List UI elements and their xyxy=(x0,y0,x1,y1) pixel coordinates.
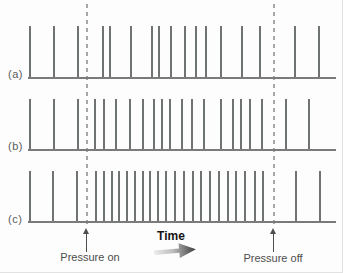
spike-mark xyxy=(126,171,128,221)
spike-mark xyxy=(103,99,105,149)
row-label-a: (a) xyxy=(8,68,23,80)
time-arrow-icon xyxy=(153,241,196,261)
spike-mark xyxy=(262,171,264,221)
spike-mark xyxy=(220,99,222,149)
spike-mark xyxy=(29,99,31,149)
spike-mark xyxy=(165,171,167,221)
time-label: Time xyxy=(157,229,185,243)
pressure-off-label: Pressure off xyxy=(243,252,302,264)
row-label-b: (b) xyxy=(8,140,23,152)
spike-mark xyxy=(295,171,297,221)
spike-mark xyxy=(181,99,183,149)
spike-mark xyxy=(244,171,246,221)
spike-mark xyxy=(153,99,155,149)
spike-mark xyxy=(192,171,194,221)
spike-mark xyxy=(285,99,287,149)
spike-mark xyxy=(129,99,131,149)
spike-mark xyxy=(53,26,55,77)
spike-mark xyxy=(319,171,321,221)
spike-mark xyxy=(184,26,186,77)
spike-mark xyxy=(220,26,222,77)
spike-train-b xyxy=(28,99,336,151)
spike-mark xyxy=(102,26,104,77)
spike-mark xyxy=(205,26,207,77)
spike-mark xyxy=(76,171,78,221)
spike-mark xyxy=(169,99,171,149)
spike-mark xyxy=(249,99,251,149)
spike-mark xyxy=(142,171,144,221)
spike-mark xyxy=(183,171,185,221)
spike-mark xyxy=(130,26,132,77)
spike-mark xyxy=(109,26,111,77)
spike-mark xyxy=(142,99,144,149)
spike-mark xyxy=(111,171,113,221)
spike-mark xyxy=(158,26,160,77)
spike-mark xyxy=(241,26,243,77)
spike-mark xyxy=(77,99,79,149)
spike-mark xyxy=(259,26,261,77)
spike-mark xyxy=(218,171,220,221)
spike-mark xyxy=(161,99,163,149)
spike-mark xyxy=(115,99,117,149)
spike-mark xyxy=(261,99,263,149)
spike-mark xyxy=(53,99,55,149)
spike-mark xyxy=(77,26,79,77)
spike-mark xyxy=(209,171,211,221)
spike-mark xyxy=(103,171,105,221)
spike-mark xyxy=(149,171,151,221)
spike-train-figure: (a) (b) (c) Pressure on Pressure off Tim… xyxy=(0,0,343,273)
pressure-on-label: Pressure on xyxy=(60,251,119,263)
spike-mark xyxy=(29,26,31,77)
spike-mark xyxy=(134,171,136,221)
spike-mark xyxy=(254,171,256,221)
spike-mark xyxy=(191,99,193,149)
spike-mark xyxy=(203,99,205,149)
spike-mark xyxy=(294,26,296,77)
spike-train-a xyxy=(28,26,336,79)
spike-mark xyxy=(29,171,31,221)
spike-mark xyxy=(94,99,96,149)
spike-mark xyxy=(174,171,176,221)
spike-mark xyxy=(170,26,172,77)
spike-mark xyxy=(151,26,153,77)
spike-mark xyxy=(235,171,237,221)
spike-mark xyxy=(195,26,197,77)
spike-mark xyxy=(95,171,97,221)
spike-mark xyxy=(227,171,229,221)
spike-mark xyxy=(52,171,54,221)
spike-mark xyxy=(157,171,159,221)
spike-mark xyxy=(118,171,120,221)
spike-mark xyxy=(318,26,320,77)
spike-mark xyxy=(200,171,202,221)
spike-mark xyxy=(240,99,242,149)
row-label-c: (c) xyxy=(8,213,22,225)
spike-mark xyxy=(232,99,234,149)
spike-train-c xyxy=(28,171,336,223)
spike-mark xyxy=(308,99,310,149)
